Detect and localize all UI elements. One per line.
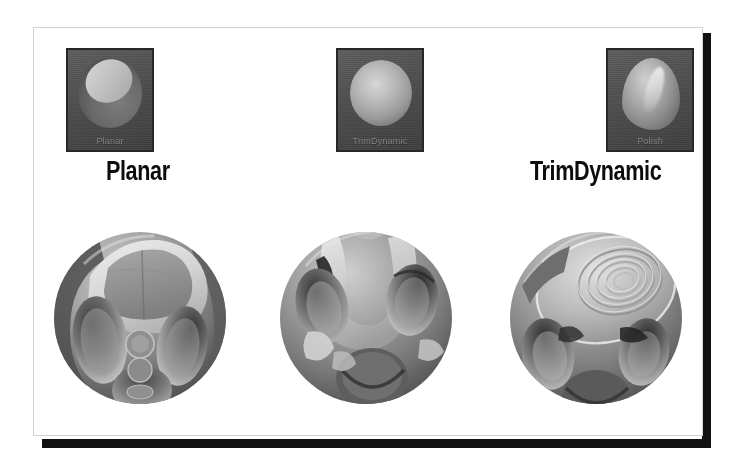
column-trimdynamic: TrimDynamic TrimDynamic: [264, 28, 464, 437]
swatch-background: [338, 50, 422, 150]
swatch-background: [68, 50, 152, 150]
panel-drop-shadow-right: [702, 33, 711, 448]
polish-surface-swatch-icon[interactable]: Polish: [606, 48, 694, 152]
comparison-panel: Planar Planar: [33, 27, 703, 436]
swatch-sphere-shape: [350, 60, 412, 126]
caption-planar: Planar: [106, 156, 170, 187]
swatch-embedded-label: TrimDynamic: [338, 136, 422, 146]
figure-root: Planar Planar: [0, 0, 748, 466]
planar-surface-swatch-icon[interactable]: Planar: [66, 48, 154, 152]
trimdynamic-surface-swatch-icon[interactable]: TrimDynamic: [336, 48, 424, 152]
panel-drop-shadow-bottom: [42, 439, 711, 448]
trimdynamic-carved-sphere-render: [272, 220, 460, 416]
swatch-background: [608, 50, 692, 150]
swatch-embedded-label: Planar: [68, 136, 152, 146]
column-planar: Planar Planar: [42, 28, 232, 437]
polish-carved-sphere-render: [502, 220, 690, 416]
column-polish: Polish Polish: [494, 28, 694, 437]
swatch-embedded-label: Polish: [608, 136, 692, 146]
planar-carved-sphere-render: [46, 220, 234, 416]
